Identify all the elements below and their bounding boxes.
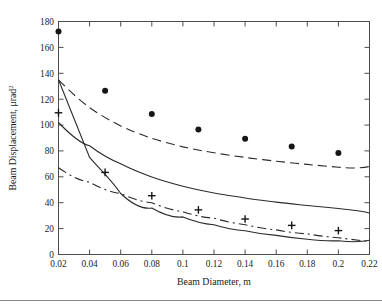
data-point-circle: [149, 111, 155, 117]
y-axis-title-superscript: 2: [7, 85, 14, 88]
y-axis-title-text: Beam Displacement, μrad: [7, 89, 18, 191]
data-point-circle: [335, 150, 341, 156]
data-point-circle: [102, 88, 108, 94]
figure-panel: 0 20 40 60 80 100 120 140 160 180 0.02 0…: [0, 0, 382, 304]
y-tick-label: 140: [40, 69, 54, 79]
x-tick-label: 0.16: [268, 259, 285, 269]
data-point-circle: [242, 136, 248, 142]
x-tick-label: 0.02: [50, 259, 67, 269]
y-tick-label: 100: [40, 120, 54, 130]
x-tick-label: 0.14: [237, 259, 254, 269]
data-point-circle: [289, 143, 295, 149]
data-point-circle: [56, 29, 62, 35]
x-tick-label: 0.08: [144, 259, 161, 269]
y-tick-label: 120: [40, 95, 54, 105]
x-tick-label: 0.2: [333, 259, 345, 269]
x-tick-label: 0.12: [206, 259, 223, 269]
y-axis-title-group: Beam Displacement, μrad2: [7, 85, 19, 190]
beam-displacement-chart: 0 20 40 60 80 100 120 140 160 180 0.02 0…: [0, 0, 382, 304]
x-tick-label: 0.18: [299, 259, 316, 269]
x-tick-label: 0.1: [177, 259, 189, 269]
y-tick-label: 40: [45, 198, 55, 208]
y-axis-title: Beam Displacement, μrad2: [7, 85, 19, 190]
data-point-circle: [195, 127, 201, 133]
y-tick-label: 20: [45, 224, 55, 234]
y-tick-label: 60: [45, 172, 55, 182]
y-tick-label: 160: [40, 43, 54, 53]
x-axis-title: Beam Diameter, m: [177, 276, 251, 287]
x-tick-label: 0.06: [113, 259, 130, 269]
y-tick-label: 80: [45, 146, 55, 156]
x-tick-label: 0.22: [361, 259, 378, 269]
y-tick-label: 180: [40, 17, 54, 27]
x-tick-label: 0.04: [81, 259, 98, 269]
